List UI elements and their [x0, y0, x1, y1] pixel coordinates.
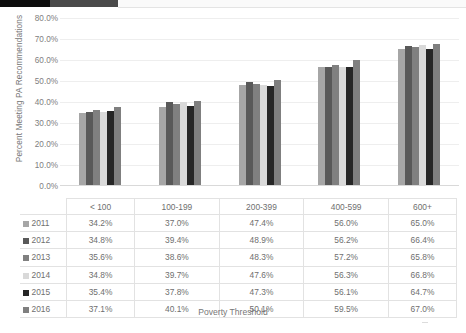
bar-group — [159, 101, 201, 185]
bar-2014-200-399[interactable] — [260, 85, 267, 185]
table-corner-cell — [20, 199, 67, 215]
bar-2015-100-199[interactable] — [187, 106, 194, 185]
legend-item-2015[interactable]: 2015 — [20, 283, 67, 300]
table-row: 201234.8%39.4%48.9%56.2%66.4% — [20, 232, 457, 249]
legend-item-label: 2014 — [32, 270, 51, 280]
legend-item-2011[interactable]: 2011 — [20, 215, 67, 232]
bar-group — [239, 80, 281, 185]
legend-swatch-icon — [23, 273, 29, 279]
x-axis-line — [60, 185, 459, 186]
bar-2012-200-399[interactable] — [246, 82, 253, 185]
table-cell: 48.9% — [219, 232, 304, 249]
x-axis-title: Poverty Threshold — [0, 307, 466, 317]
table-column-header: 600+ — [388, 199, 456, 215]
table-column-header: 400-599 — [304, 199, 389, 215]
bar-group — [79, 107, 121, 185]
bar-2012-100[interactable] — [86, 112, 93, 185]
bar-2011-400-599[interactable] — [318, 67, 325, 185]
top-decoration-bar — [0, 0, 466, 7]
bar-2014-600[interactable] — [419, 45, 426, 185]
bar-2013-100-199[interactable] — [173, 104, 180, 185]
corner-mark — [422, 322, 428, 323]
table-row: 201134.2%37.0%47.4%56.0%65.0% — [20, 215, 457, 232]
legend-item-2013[interactable]: 2013 — [20, 249, 67, 266]
bar-2013-100[interactable] — [93, 110, 100, 185]
bar-2012-600[interactable] — [405, 46, 412, 185]
bar-group — [398, 44, 440, 185]
table-cell: 38.6% — [135, 249, 220, 266]
table-cell: 56.2% — [304, 232, 389, 249]
bar-2013-200-399[interactable] — [253, 84, 260, 185]
bar-2014-400-599[interactable] — [339, 67, 346, 185]
topbar-underline — [118, 7, 466, 8]
table-row: 201335.6%38.6%48.3%57.2%65.8% — [20, 249, 457, 266]
legend-swatch-icon — [23, 221, 29, 227]
table-cell: 35.6% — [67, 249, 135, 266]
table-cell: 47.4% — [219, 215, 304, 232]
bar-2016-400-599[interactable] — [353, 60, 360, 185]
bar-2015-200-399[interactable] — [267, 86, 274, 185]
y-tick-label: 70.0% — [35, 35, 58, 44]
bar-2013-400-599[interactable] — [332, 65, 339, 185]
table-cell: 39.4% — [135, 232, 220, 249]
bar-2016-200-399[interactable] — [274, 80, 281, 185]
y-tick-label: 80.0% — [35, 14, 58, 23]
bar-2015-100[interactable] — [107, 111, 114, 185]
legend-swatch-icon — [23, 255, 29, 261]
table-cell: 56.3% — [304, 266, 389, 283]
bar-group — [318, 60, 360, 185]
legend-item-label: 2012 — [32, 235, 51, 245]
legend-item-2014[interactable]: 2014 — [20, 266, 67, 283]
bar-2015-400-599[interactable] — [346, 67, 353, 185]
bar-2014-100[interactable] — [100, 112, 107, 185]
y-axis-tick-labels: 0.0%10.0%20.0%30.0%40.0%50.0%60.0%70.0%8… — [18, 14, 58, 186]
data-table-body: < 100100-199200-399400-599600+201134.2%3… — [20, 199, 457, 318]
bar-2015-600[interactable] — [426, 49, 433, 185]
bar-2014-100-199[interactable] — [180, 102, 187, 185]
y-tick-label: 40.0% — [35, 98, 58, 107]
table-cell: 64.7% — [388, 283, 456, 300]
table-cell: 66.8% — [388, 266, 456, 283]
table-cell: 65.8% — [388, 249, 456, 266]
bar-2011-100-199[interactable] — [159, 107, 166, 185]
y-tick-label: 60.0% — [35, 56, 58, 65]
bar-chart: Percent Meeting PA Recommendations 0.0%1… — [0, 14, 466, 200]
bar-2016-600[interactable] — [433, 44, 440, 185]
table-column-header: 100-199 — [135, 199, 220, 215]
y-tick-label: 50.0% — [35, 77, 58, 86]
table-cell: 34.2% — [67, 215, 135, 232]
legend-item-label: 2013 — [32, 252, 51, 262]
table-column-header: 200-399 — [219, 199, 304, 215]
bar-2013-600[interactable] — [412, 47, 419, 185]
table-cell: 47.3% — [219, 283, 304, 300]
table-cell: 65.0% — [388, 215, 456, 232]
y-tick-label: 30.0% — [35, 119, 58, 128]
bar-2016-100[interactable] — [114, 107, 121, 185]
table-header-row: < 100100-199200-399400-599600+ — [20, 199, 457, 215]
y-tick-label: 0.0% — [39, 182, 58, 191]
legend-item-2012[interactable]: 2012 — [20, 232, 67, 249]
legend-swatch-icon — [23, 290, 29, 296]
legend-item-label: 2015 — [32, 287, 51, 297]
table-row: 201434.8%39.7%47.6%56.3%66.8% — [20, 266, 457, 283]
bar-2011-600[interactable] — [398, 49, 405, 186]
y-tick-label: 10.0% — [35, 161, 58, 170]
bar-2012-100-199[interactable] — [166, 102, 173, 185]
table-cell: 34.8% — [67, 266, 135, 283]
table-cell: 37.8% — [135, 283, 220, 300]
y-tick-label: 20.0% — [35, 140, 58, 149]
table-cell: 47.6% — [219, 266, 304, 283]
table-cell: 39.7% — [135, 266, 220, 283]
table-cell: 34.8% — [67, 232, 135, 249]
table-cell: 56.1% — [304, 283, 389, 300]
bar-2011-100[interactable] — [79, 113, 86, 185]
bar-2011-200-399[interactable] — [239, 85, 246, 185]
table-cell: 57.2% — [304, 249, 389, 266]
bar-2016-100-199[interactable] — [194, 101, 201, 185]
gridline — [60, 39, 459, 40]
bar-2012-400-599[interactable] — [325, 67, 332, 185]
topbar-segment-gray — [50, 0, 118, 7]
table-cell: 66.4% — [388, 232, 456, 249]
gridline — [60, 18, 459, 19]
topbar-segment-light — [118, 0, 466, 7]
